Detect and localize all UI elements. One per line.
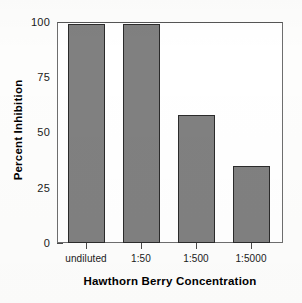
x-tick-label-undiluted: undiluted bbox=[65, 254, 107, 264]
x-tick-label-1-5000: 1:5000 bbox=[235, 254, 266, 264]
x-tick-label-1-50: 1:50 bbox=[131, 254, 151, 264]
bar-1-5000 bbox=[233, 166, 270, 243]
y-tick-label: 100 bbox=[31, 17, 50, 28]
bar-1-500 bbox=[178, 115, 215, 243]
x-tick-mark bbox=[196, 243, 197, 249]
x-tick-mark bbox=[86, 243, 87, 249]
x-tick-mark bbox=[251, 243, 252, 249]
y-axis-title-text: Percent Inhibition bbox=[12, 80, 24, 181]
y-tick-label: 50 bbox=[37, 127, 50, 138]
y-tick-label: 75 bbox=[37, 72, 50, 83]
x-axis-title: Hawthorn Berry Concentration bbox=[57, 275, 283, 287]
bars-layer bbox=[57, 22, 283, 243]
bar-undiluted bbox=[68, 24, 105, 243]
x-tick-label-1-500: 1:500 bbox=[183, 254, 209, 264]
y-tick-label: 0 bbox=[44, 238, 50, 249]
bar-1-50 bbox=[123, 24, 160, 243]
bar-chart-figure: Percent Inhibition 100 75 50 25 0 undilu… bbox=[0, 0, 302, 303]
y-tick-mark bbox=[57, 243, 63, 244]
y-axis-title: Percent Inhibition bbox=[9, 50, 27, 210]
x-tick-mark bbox=[141, 243, 142, 249]
y-tick-label: 25 bbox=[37, 183, 50, 194]
